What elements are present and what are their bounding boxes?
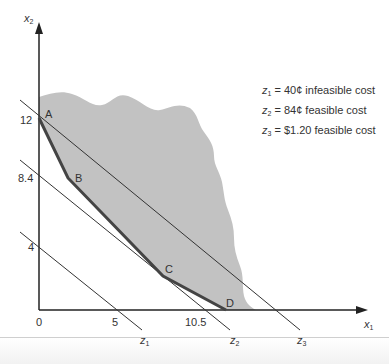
footer-band [0,337,389,364]
legend: z1 = 40¢ infeasible cost z2 = 84¢ feasib… [262,82,376,142]
point-b-label: B [75,172,82,184]
z1-line-label: z1 [140,334,149,347]
point-c-label: C [165,263,173,275]
x-tick-10-5: 10.5 [185,316,206,328]
point-a-label: A [45,108,52,120]
y-tick-4: 4 [28,241,34,253]
x-axis-label: x1 [364,318,373,331]
y-axis-arrow-icon [35,22,43,34]
point-d-label: D [226,297,234,309]
y-axis-label: x2 [24,12,33,25]
origin-label: 0 [36,316,42,328]
x-tick-5: 5 [112,316,118,328]
legend-item-z2: z2 = 84¢ feasible cost [262,102,376,122]
y-tick-12: 12 [20,114,32,126]
z3-line-label: z3 [297,334,306,347]
legend-item-z3: z3 = $1.20 feasible cost [262,122,376,142]
legend-item-z1: z1 = 40¢ infeasible cost [262,82,376,102]
z2-line-label: z2 [230,334,239,347]
x-axis-arrow-icon [356,306,368,314]
y-tick-8-4: 8.4 [18,172,33,184]
